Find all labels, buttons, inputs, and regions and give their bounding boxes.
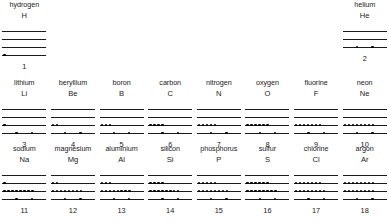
- energy-level: [148, 185, 192, 193]
- electron-dot: [214, 124, 216, 126]
- electron-dot: [295, 190, 297, 192]
- electron-dot: [262, 124, 264, 126]
- electron-dot: [315, 190, 317, 192]
- element-symbol: C: [167, 89, 172, 99]
- electron-dot: [101, 124, 103, 126]
- energy-level: [294, 185, 338, 193]
- energy-level: [197, 111, 241, 119]
- energy-level-line: [343, 175, 387, 176]
- energy-level: [245, 177, 289, 185]
- energy-levels: [343, 169, 387, 201]
- electron-dot: [254, 190, 256, 192]
- electron-group: [294, 119, 338, 127]
- electron-dot: [64, 198, 66, 200]
- electron-dot: [311, 190, 313, 192]
- period-row-3: sodiumNa11magnesiumMg12aluminiumAl13sili…: [0, 144, 389, 216]
- electron-dot: [307, 132, 309, 134]
- electron-dot: [371, 132, 373, 134]
- energy-level: [100, 103, 144, 111]
- electron-group: [148, 193, 192, 201]
- electron-group: [100, 177, 144, 185]
- energy-level: [51, 169, 95, 177]
- element-name: sodium: [13, 144, 36, 154]
- electron-dot: [101, 190, 103, 192]
- element-symbol: Li: [21, 89, 27, 99]
- energy-level: [148, 119, 192, 127]
- electron-group: [148, 119, 192, 127]
- energy-level-line: [100, 175, 144, 176]
- electron-dot: [161, 132, 163, 134]
- electron-dot: [161, 182, 163, 184]
- energy-level-line: [2, 39, 46, 40]
- electron-dot: [258, 182, 260, 184]
- electron-dot: [157, 124, 159, 126]
- energy-level: [343, 119, 387, 127]
- energy-level: [343, 111, 387, 119]
- element-symbol: S: [265, 155, 270, 165]
- energy-level-line: [294, 175, 338, 176]
- energy-level: [2, 49, 46, 57]
- electron-dot: [157, 182, 159, 184]
- energy-level: [148, 177, 192, 185]
- electron-dot: [68, 190, 70, 192]
- electron-group: [51, 177, 95, 185]
- electron-dot: [250, 124, 252, 126]
- electron-group: [294, 177, 338, 185]
- electron-group: [245, 119, 289, 127]
- energy-levels: [51, 103, 95, 135]
- electron-dot: [120, 190, 122, 192]
- energy-level: [197, 127, 241, 135]
- element-name: sulfur: [259, 144, 276, 154]
- electron-dot: [307, 182, 309, 184]
- electron-dot: [319, 182, 321, 184]
- element-name: nitrogen: [206, 78, 232, 88]
- energy-level: [294, 193, 338, 201]
- electron-dot: [153, 182, 155, 184]
- electron-energy-level-diagram: hydrogenH1heliumHe2 lithiumLi3berylliumB…: [0, 0, 389, 222]
- electron-dot: [177, 132, 179, 134]
- electron-dot: [80, 190, 82, 192]
- electron-dot: [352, 124, 354, 126]
- element-cell-li: lithiumLi3: [0, 78, 49, 144]
- electron-dot: [299, 124, 301, 126]
- atomic-number: 2: [363, 54, 367, 64]
- element-name: magnesium: [55, 144, 92, 154]
- electron-dot: [307, 124, 309, 126]
- electron-group: [197, 193, 241, 201]
- element-cell-c: carbonC6: [146, 78, 195, 144]
- electron-group: [245, 193, 289, 201]
- energy-level: [294, 103, 338, 111]
- element-symbol: O: [264, 89, 270, 99]
- electron-dot: [226, 190, 228, 192]
- element-cell-o: oxygenO8: [243, 78, 292, 144]
- electron-dot: [56, 190, 58, 192]
- electron-dot: [222, 190, 224, 192]
- energy-level: [343, 41, 387, 49]
- electron-group: [294, 127, 338, 135]
- atomic-number: 12: [69, 206, 77, 216]
- electron-dot: [149, 124, 151, 126]
- electron-group: [100, 193, 144, 201]
- electron-dot: [157, 190, 159, 192]
- element-cell-si: siliconSi14: [146, 144, 195, 216]
- electron-dot: [315, 182, 317, 184]
- electron-dot: [254, 124, 256, 126]
- energy-level-line: [51, 117, 95, 118]
- element-name: boron: [112, 78, 130, 88]
- energy-level: [148, 193, 192, 201]
- electron-dot: [31, 198, 33, 200]
- electron-dot: [311, 182, 313, 184]
- energy-levels: [245, 103, 289, 135]
- element-name: phosphorus: [200, 144, 237, 154]
- element-symbol: H: [22, 11, 27, 21]
- energy-levels: [197, 103, 241, 135]
- electron-dot: [323, 190, 325, 192]
- electron-dot: [303, 124, 305, 126]
- energy-level: [2, 177, 46, 185]
- energy-level-line: [343, 117, 387, 118]
- energy-level: [197, 185, 241, 193]
- energy-level-line: [148, 117, 192, 118]
- electron-dot: [153, 124, 155, 126]
- energy-levels: [2, 103, 46, 135]
- energy-level: [294, 177, 338, 185]
